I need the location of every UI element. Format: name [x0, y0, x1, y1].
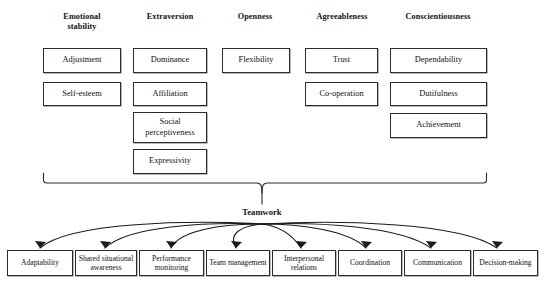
teamwork-box-interpersonal-relations[interactable]: Interpersonal relations: [272, 250, 336, 276]
teamwork-box-communication[interactable]: Communication: [404, 250, 471, 276]
column-header-line1: Extraversion: [131, 12, 209, 22]
teamwork-branch-interpersonal: [262, 224, 301, 248]
trait-box-affiliation[interactable]: Affiliation: [133, 82, 207, 106]
teamwork-box-decision-making[interactable]: Decision-making: [473, 250, 538, 276]
brace-right-arm: [262, 173, 487, 193]
column-header-openness: Openness: [219, 12, 291, 22]
diagram-canvas: Emotional stability Extraversion Opennes…: [0, 0, 549, 281]
teamwork-branch-decision-making: [262, 222, 497, 248]
brace-left-arm: [44, 173, 263, 193]
column-header-emotional-stability: Emotional stability: [43, 12, 121, 32]
teamwork-branch-coordination: [262, 224, 366, 248]
trait-box-social-perceptiveness[interactable]: Social perceptiveness: [133, 112, 207, 143]
teamwork-branch-adaptability: [40, 222, 262, 248]
arrowheads: [35, 241, 503, 248]
teamwork-box-adaptability[interactable]: Adaptability: [7, 250, 73, 276]
column-header-line1: Agreeableness: [303, 12, 381, 22]
teamwork-box-coordination[interactable]: Coordination: [338, 250, 402, 276]
trait-box-self-esteem[interactable]: Self-esteem: [43, 82, 121, 106]
teamwork-branch-team-management: [234, 224, 262, 248]
trait-box-achievement[interactable]: Achievement: [390, 113, 487, 138]
trait-box-dutifulness[interactable]: Dutifulness: [390, 82, 487, 106]
trait-box-expressivity[interactable]: Expressivity: [133, 149, 207, 174]
trait-box-adjustment[interactable]: Adjustment: [43, 48, 121, 73]
teamwork-label: Teamwork: [212, 207, 312, 217]
trait-box-dominance[interactable]: Dominance: [133, 48, 207, 73]
teamwork-box-shared-situational-awareness[interactable]: Shared situational awareness: [75, 250, 137, 276]
teamwork-branch-communication: [262, 224, 431, 248]
teamwork-box-team-management[interactable]: Team management: [206, 250, 270, 276]
column-header-line2: stability: [43, 22, 121, 32]
connector-lines: [0, 0, 549, 281]
column-header-extraversion: Extraversion: [131, 12, 209, 22]
trait-box-flexibility[interactable]: Flexibility: [222, 48, 290, 73]
column-header-line1: Openness: [219, 12, 291, 22]
teamwork-branch-performance: [171, 224, 262, 248]
column-header-conscientiousness: Conscientiousness: [386, 12, 490, 22]
column-header-line1: Emotional: [43, 12, 121, 22]
trait-box-trust[interactable]: Trust: [305, 48, 378, 73]
trait-box-co-operation[interactable]: Co-operation: [305, 82, 378, 106]
teamwork-box-performance-monitoring[interactable]: Performance monitoring: [139, 250, 204, 276]
column-header-agreeableness: Agreeableness: [303, 12, 381, 22]
trait-box-dependability[interactable]: Dependability: [390, 48, 487, 73]
column-header-line1: Conscientiousness: [386, 12, 490, 22]
teamwork-branch-shared-situational: [105, 224, 262, 248]
